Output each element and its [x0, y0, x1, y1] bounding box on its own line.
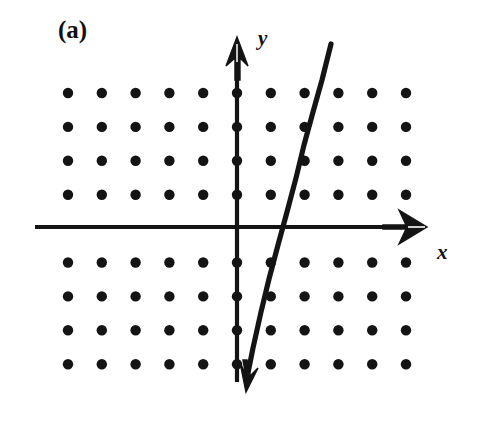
lattice-dot [266, 156, 276, 166]
lattice-dot [333, 291, 343, 301]
lattice-dot [164, 190, 174, 200]
lattice-dot [333, 359, 343, 369]
figure-canvas [0, 0, 486, 434]
lattice-dot [401, 291, 411, 301]
lattice-dot [266, 359, 276, 369]
lattice-dot [401, 325, 411, 335]
lattice-dot [164, 291, 174, 301]
lattice-dot [97, 122, 107, 132]
lattice-dot [130, 88, 140, 98]
lattice-dot [63, 156, 73, 166]
lattice-dot [367, 156, 377, 166]
lattice-dot [401, 122, 411, 132]
y-axis-label: y [258, 26, 267, 51]
lattice-dot [266, 190, 276, 200]
lattice-dot [198, 156, 208, 166]
lattice-dot [367, 325, 377, 335]
lattice-dot [164, 88, 174, 98]
lattice-dot [130, 325, 140, 335]
lattice-dot [266, 88, 276, 98]
lattice-dot [198, 190, 208, 200]
lattice-dot [97, 88, 107, 98]
lattice-dot [198, 291, 208, 301]
lattice-dot [299, 291, 309, 301]
lattice-dot [198, 88, 208, 98]
lattice-dot [130, 257, 140, 267]
horizontal-axis [35, 210, 427, 244]
lattice-dot [333, 190, 343, 200]
lattice-dot [198, 122, 208, 132]
lattice-dot [333, 325, 343, 335]
plotted-line [240, 44, 331, 392]
lattice-dot [299, 325, 309, 335]
lattice-dot [130, 122, 140, 132]
lattice-dot [164, 156, 174, 166]
lattice-dot [299, 257, 309, 267]
lattice-dot [164, 257, 174, 267]
lattice-dot [97, 156, 107, 166]
lattice-dot [198, 257, 208, 267]
lattice-dot [97, 190, 107, 200]
lattice-dot [367, 190, 377, 200]
lattice-dot [63, 291, 73, 301]
lattice-dot [333, 122, 343, 132]
lattice-dot [97, 291, 107, 301]
lattice-dot [63, 122, 73, 132]
lattice-dot [367, 359, 377, 369]
lattice-dot [198, 325, 208, 335]
lattice-dot [401, 359, 411, 369]
lattice-dot [333, 257, 343, 267]
lattice-dot [333, 156, 343, 166]
lattice-dot [164, 359, 174, 369]
lattice-dot [367, 291, 377, 301]
lattice-dot [130, 156, 140, 166]
vertical-axis [226, 37, 248, 382]
lattice-dot [401, 190, 411, 200]
lattice-dot [367, 122, 377, 132]
lattice-dot [266, 122, 276, 132]
lattice-dot [299, 88, 309, 98]
lattice-dot [164, 122, 174, 132]
lattice-dot [367, 88, 377, 98]
lattice-dot [130, 359, 140, 369]
lattice-dot [299, 359, 309, 369]
lattice-dot [130, 190, 140, 200]
lattice-dot [198, 359, 208, 369]
lattice-dot [97, 325, 107, 335]
lattice-dot [63, 325, 73, 335]
lattice-dot [333, 88, 343, 98]
lattice-dot [63, 257, 73, 267]
lattice-dot [97, 359, 107, 369]
x-axis-label: x [437, 240, 448, 265]
lattice-dot [63, 359, 73, 369]
lattice-dot [367, 257, 377, 267]
figure-panel: (a) y x [0, 0, 486, 434]
lattice-dot [63, 88, 73, 98]
lattice-dot [401, 156, 411, 166]
lattice-dot [266, 325, 276, 335]
lattice-dot [63, 190, 73, 200]
panel-label: (a) [58, 16, 87, 44]
lattice-dot [401, 257, 411, 267]
lattice-dot [401, 88, 411, 98]
plotted-line-path [247, 44, 331, 378]
lattice-dot [299, 190, 309, 200]
lattice-dot [164, 325, 174, 335]
lattice-dot [130, 291, 140, 301]
lattice-dot [97, 257, 107, 267]
